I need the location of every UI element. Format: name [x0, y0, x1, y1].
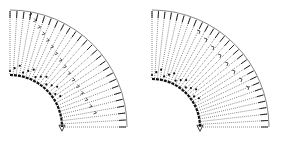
ray-tip — [247, 71, 253, 74]
dense-mark — [185, 79, 187, 81]
ray-tip — [176, 14, 178, 21]
seam-mark — [239, 78, 242, 82]
radial-ray — [198, 89, 261, 111]
ray-tip — [241, 60, 247, 64]
radial-ray — [180, 32, 219, 87]
ray-tip — [257, 95, 264, 97]
radial-ray — [199, 95, 263, 114]
radial-ray — [168, 18, 190, 81]
ray-tip — [188, 18, 190, 25]
ray-tip — [253, 83, 259, 86]
ray-tip — [114, 92, 121, 94]
radial-ray — [35, 24, 64, 80]
ray-tip — [229, 45, 234, 50]
ray-tip — [23, 12, 24, 19]
radial-ray — [196, 77, 256, 106]
ray-tip — [258, 101, 265, 103]
dense-mark — [151, 74, 153, 76]
sector-plot-right — [142, 0, 284, 144]
ray-tip — [255, 89, 262, 91]
radial-ray — [54, 61, 106, 97]
ray-tip — [66, 28, 70, 34]
sector-plot-left-canvas — [0, 0, 142, 144]
ray-tip — [250, 77, 256, 80]
ray-tip — [194, 20, 197, 26]
dense-mark — [14, 67, 16, 69]
sector-plot-left — [0, 0, 142, 144]
outer-arc — [10, 10, 127, 127]
ray-tip — [87, 45, 92, 50]
radial-ray — [195, 71, 254, 103]
radial-ray — [160, 13, 171, 79]
ray-tip — [49, 19, 51, 26]
seam-mark — [85, 98, 88, 101]
ray-tip — [82, 40, 87, 45]
ray-tip — [42, 16, 44, 23]
seam-mark — [38, 25, 41, 28]
dense-mark — [155, 71, 157, 73]
ray-tip — [233, 50, 238, 55]
dense-mark — [180, 79, 182, 81]
radial-ray — [163, 14, 178, 79]
ray-tip — [260, 114, 267, 115]
radial-ray — [200, 108, 266, 119]
ray-tip — [77, 36, 81, 42]
radial-ray — [155, 11, 159, 78]
dense-mark — [40, 76, 42, 78]
ray-tip — [215, 32, 219, 38]
ray-tip — [210, 29, 214, 35]
dense-mark — [33, 69, 35, 71]
ray-tip — [107, 73, 113, 76]
ray-tip — [72, 32, 76, 38]
ray-tip — [205, 25, 208, 31]
radial-ray — [57, 73, 113, 102]
radial-ray — [176, 25, 208, 84]
seam-mark — [246, 86, 249, 90]
seam-mark — [204, 38, 207, 42]
dense-mark — [51, 84, 53, 86]
dense-mark — [173, 72, 175, 74]
radial-ray — [50, 50, 97, 92]
seam-mark — [68, 71, 71, 74]
radial-ray — [201, 120, 268, 124]
seam-mark — [225, 62, 228, 66]
seam-mark — [89, 104, 92, 107]
radial-ray — [45, 40, 87, 87]
ray-tip — [117, 106, 124, 107]
seam-mark — [33, 19, 36, 22]
radial-ray — [200, 101, 265, 116]
ray-tip — [225, 41, 230, 46]
dense-mark — [59, 95, 61, 97]
dense-mark — [27, 70, 29, 72]
inner-arc — [10, 75, 62, 127]
ray-tip — [30, 13, 31, 20]
ray-tip — [103, 67, 109, 71]
radial-ray — [201, 114, 268, 122]
ray-tip — [109, 79, 115, 82]
radial-ray — [13, 11, 17, 74]
ray-tip — [244, 65, 250, 69]
seam-mark — [51, 45, 54, 48]
outer-arc — [152, 10, 269, 127]
ray-tip — [100, 61, 106, 65]
dense-mark — [34, 76, 36, 78]
dense-mark — [163, 75, 165, 77]
dense-mark — [22, 71, 24, 73]
dense-mark — [54, 93, 56, 95]
radial-ray — [157, 12, 165, 79]
ray-tip — [61, 24, 64, 30]
ray-tip — [237, 55, 242, 59]
ray-tip — [118, 113, 125, 114]
ray-tip — [182, 16, 184, 23]
seam-mark — [81, 91, 84, 94]
seam-mark — [46, 38, 49, 41]
ray-tip — [55, 21, 58, 27]
radial-ray — [192, 60, 247, 99]
ray-tip — [112, 86, 119, 88]
ray-tip — [96, 55, 102, 59]
seam-mark — [59, 58, 62, 61]
seam-mark — [218, 54, 221, 58]
radial-ray — [60, 86, 119, 108]
ray-tip — [116, 99, 123, 101]
radial-ray — [58, 79, 115, 105]
